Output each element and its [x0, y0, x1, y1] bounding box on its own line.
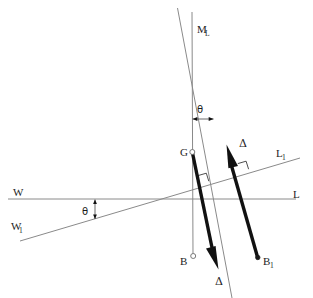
label-waterline-L1-subscript: 1 [282, 153, 286, 162]
point-marker-B1 [256, 255, 260, 259]
right-angle-marker-right [238, 161, 249, 169]
angle-mark-upper [193, 117, 214, 121]
label-gravity: G [180, 146, 188, 158]
label-angle-theta-upper: θ [197, 104, 203, 115]
label-buoyancy: B [180, 255, 187, 267]
diagram-canvas: M L G B B 1 W L W 1 L 1 θ θ Δ Δ [0, 0, 313, 298]
label-vector-delta-up: Δ [239, 137, 247, 150]
label-vector-delta-down: Δ [215, 275, 223, 288]
label-metacentre-subscript: L [205, 29, 210, 38]
vertical-centreline [192, 12, 193, 256]
label-waterline-W: W [13, 186, 24, 198]
vector-delta-down [193, 153, 219, 270]
point-marker-G [190, 150, 195, 155]
point-marker-B [191, 254, 196, 259]
label-angle-theta-lower: θ [82, 206, 88, 217]
ship-stability-diagram: M L G B B 1 W L W 1 L 1 θ θ Δ Δ [0, 0, 313, 298]
label-waterline-W1-subscript: 1 [19, 226, 23, 235]
label-waterline-L: L [293, 188, 300, 200]
angle-mark-lower [93, 200, 97, 219]
label-buoyancy-inclined-subscript: 1 [270, 261, 274, 270]
vector-delta-up [227, 145, 258, 258]
